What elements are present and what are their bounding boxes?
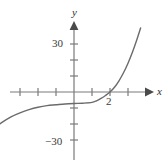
y-tick-label-30: 30 (52, 38, 63, 49)
y-tick-label-minus-30: −30 (45, 136, 62, 147)
y-axis-arrow-icon (70, 21, 79, 30)
x-axis-arrow-icon (145, 88, 154, 97)
data-curve (0, 28, 141, 161)
plot-canvas (0, 0, 168, 168)
chart-figure: 30 −30 2 x y (0, 0, 168, 168)
x-tick-label-2: 2 (106, 96, 112, 107)
y-axis-label: y (72, 7, 77, 18)
x-axis-label: x (157, 86, 162, 97)
